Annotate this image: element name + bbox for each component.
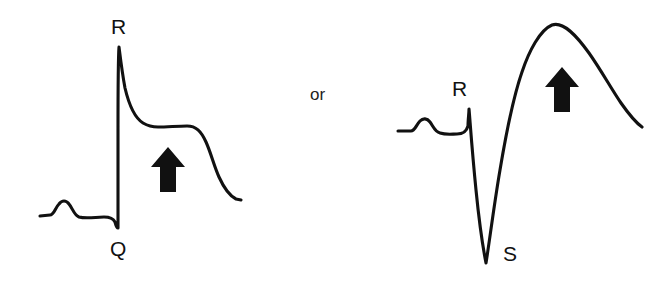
- s-wave-label-right: S: [503, 243, 517, 264]
- right-ecg-waveform-path: [398, 24, 642, 263]
- right-ecg-tracing: [0, 0, 671, 283]
- r-wave-label-right: R: [452, 78, 467, 99]
- ecg-figure: R Q or R S: [0, 0, 671, 283]
- right-elevation-arrow: [545, 67, 579, 112]
